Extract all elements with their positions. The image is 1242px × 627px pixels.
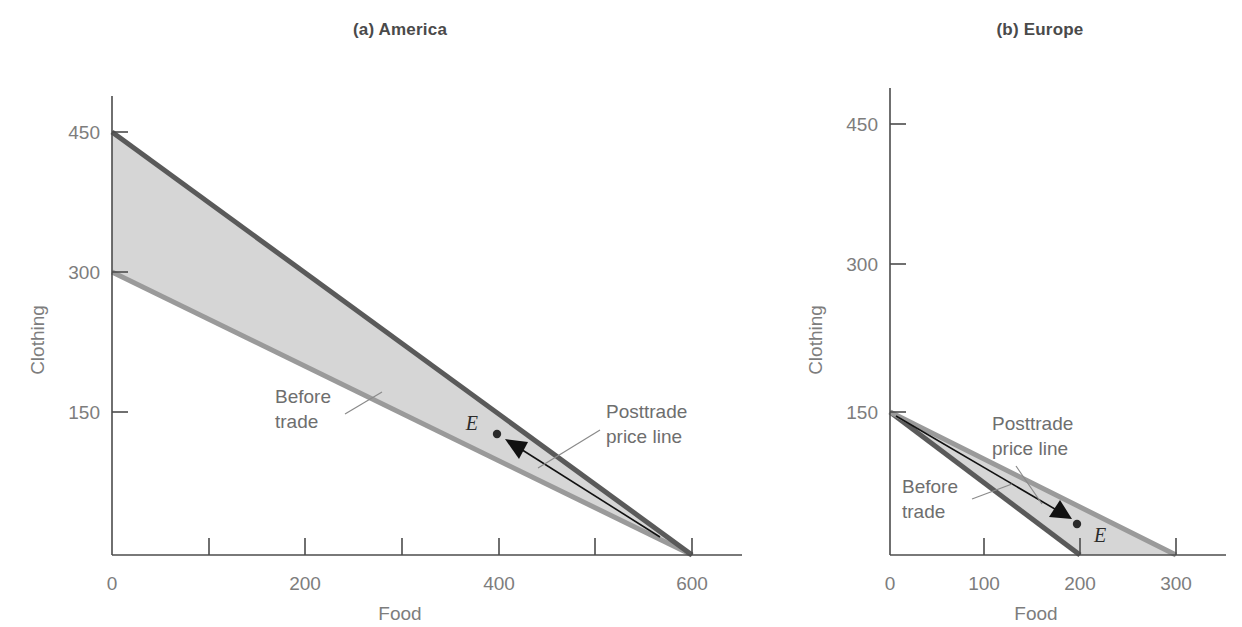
europe-xtick-label-200: 200 <box>1064 573 1096 594</box>
europe-before-trade-label-line2: trade <box>902 501 945 522</box>
europe-x-axis-title: Food <box>1014 603 1057 624</box>
figure-root: (a) America 450 300 150 <box>0 0 1242 627</box>
europe-posttrade-label-line2: price line <box>992 438 1068 459</box>
america-before-trade-line <box>112 272 692 555</box>
europe-xtick-label-300: 300 <box>1160 573 1192 594</box>
america-posttrade-label-line1: Posttrade <box>606 401 687 422</box>
europe-point-e-dot <box>1073 520 1081 528</box>
panel-america: (a) America 450 300 150 <box>0 0 760 627</box>
europe-ytick-label-450: 450 <box>846 114 878 135</box>
europe-ytick-label-300: 300 <box>846 254 878 275</box>
america-xtick-label-600: 600 <box>676 573 708 594</box>
europe-plot-svg: 450 300 150 0 100 200 300 Food Clothing … <box>760 0 1242 627</box>
america-plot-svg: 450 300 150 0 200 400 600 Food Clothing … <box>0 0 760 627</box>
europe-before-trade-label-line1: Before <box>902 476 958 497</box>
america-xtick-label-400: 400 <box>483 573 515 594</box>
europe-posttrade-label-line1: Posttrade <box>992 413 1073 434</box>
america-ytick-label-300: 300 <box>68 262 100 283</box>
america-before-trade-label-line1: Before <box>275 386 331 407</box>
europe-xtick-label-0: 0 <box>885 573 896 594</box>
america-posttrade-label-line2: price line <box>606 426 682 447</box>
america-point-e-label: E <box>465 412 478 434</box>
europe-xtick-label-100: 100 <box>968 573 1000 594</box>
europe-ytick-label-150: 150 <box>846 402 878 423</box>
america-ytick-label-150: 150 <box>68 402 100 423</box>
america-trade-arrow-shaft <box>516 446 660 537</box>
america-xtick-label-0: 0 <box>107 573 118 594</box>
europe-point-e-label: E <box>1093 524 1106 546</box>
panel-europe: (b) Europe 450 300 150 <box>760 0 1242 627</box>
america-y-axis-title: Clothing <box>27 305 48 375</box>
europe-y-axis-title: Clothing <box>805 305 826 375</box>
america-posttrade-price-line <box>112 132 692 555</box>
america-before-trade-label-line2: trade <box>275 411 318 432</box>
america-ytick-label-450: 450 <box>68 122 100 143</box>
america-xtick-label-200: 200 <box>289 573 321 594</box>
america-x-axis-title: Food <box>378 603 421 624</box>
america-point-e-dot <box>493 430 501 438</box>
